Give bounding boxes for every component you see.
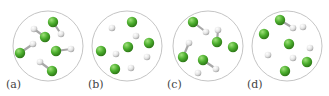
- white-atom: [133, 33, 140, 40]
- panel-label-c: (c): [167, 78, 182, 91]
- panel-label-d: (d): [247, 78, 263, 91]
- green-atom: [40, 32, 50, 42]
- green-atom: [280, 66, 290, 76]
- panel-c: [173, 11, 243, 81]
- green-atom: [228, 42, 238, 52]
- panel-label-b: (b): [88, 78, 104, 91]
- white-atom: [37, 59, 44, 66]
- white-atom: [128, 65, 135, 72]
- green-atom: [302, 57, 312, 67]
- panel-label-a: (a): [6, 78, 21, 91]
- white-atom: [307, 45, 314, 52]
- green-atom: [47, 66, 57, 76]
- green-atom: [51, 46, 61, 56]
- white-atom: [58, 31, 65, 38]
- green-atom: [48, 17, 58, 27]
- green-atom: [123, 42, 133, 52]
- white-atom: [195, 70, 202, 77]
- green-atom: [188, 17, 198, 27]
- green-atom: [96, 46, 106, 56]
- white-atom: [290, 55, 297, 62]
- white-atom: [144, 54, 151, 61]
- green-atom: [284, 39, 294, 49]
- green-atom: [178, 52, 188, 62]
- green-atom: [275, 15, 285, 25]
- white-atom: [68, 46, 75, 53]
- panel-d: [252, 11, 322, 81]
- white-atom: [290, 25, 297, 32]
- green-atom: [212, 37, 222, 47]
- white-atom: [30, 41, 37, 48]
- green-atom: [127, 17, 137, 27]
- green-atom: [110, 64, 120, 74]
- white-atom: [113, 51, 120, 58]
- white-atom: [215, 27, 222, 34]
- green-atom: [15, 48, 25, 58]
- white-atom: [300, 24, 307, 31]
- molecular-diagram: [0, 0, 329, 96]
- white-atom: [213, 66, 220, 73]
- green-atom: [259, 29, 269, 39]
- white-atom: [265, 52, 272, 59]
- white-atom: [109, 25, 116, 32]
- white-atom: [31, 26, 38, 33]
- white-atom: [203, 29, 210, 36]
- green-atom: [198, 55, 208, 65]
- panel-b: [92, 11, 162, 81]
- panel-a: [13, 11, 83, 81]
- white-atom: [186, 40, 193, 47]
- green-atom: [144, 38, 154, 48]
